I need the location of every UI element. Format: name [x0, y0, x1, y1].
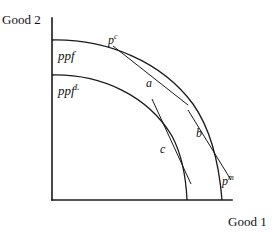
ppf-diagram: Good 2 Good 1 ppf ppfL pc pm a b c [0, 0, 278, 235]
price-line-pc-inner [152, 99, 191, 184]
y-axis-label: Good 2 [2, 12, 41, 28]
point-label-a: a [146, 76, 152, 91]
x-axis-label: Good 1 [228, 214, 267, 230]
curve-label-ppf-limited: ppfL [58, 83, 79, 99]
point-label-c: c [160, 142, 165, 157]
curve-ppf [52, 40, 222, 200]
curve-label-ppf: ppf [58, 48, 75, 64]
point-label-b: b [196, 126, 202, 141]
price-label-pc: pc [108, 33, 118, 48]
price-label-pm: pm [222, 174, 234, 189]
price-line-pm [188, 110, 231, 180]
diagram-canvas [0, 0, 278, 235]
